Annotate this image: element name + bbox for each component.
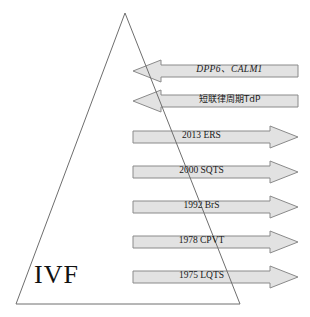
arrow-1992-brs (133, 196, 298, 218)
arrow-layer (133, 60, 298, 288)
arrow-short-coupled-tdp (133, 90, 298, 112)
arrow-2000-sqts (133, 161, 298, 183)
arrow-dpp6-calm1 (133, 60, 298, 82)
page-title: IVF (34, 262, 79, 288)
ivf-timeline-figure: DPP6、CALM1短联律周期TdP2013 ERS2000 SQTS1992 … (0, 0, 310, 317)
arrow-1975-lqts (133, 266, 298, 288)
arrow-2013-ers (133, 126, 298, 148)
